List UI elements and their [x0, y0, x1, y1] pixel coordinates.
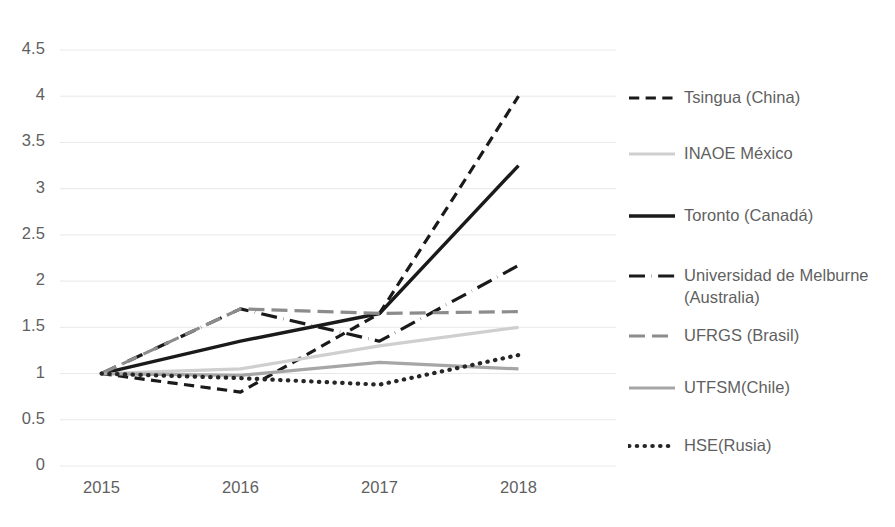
- legend-item[interactable]: INAOE México: [628, 142, 893, 164]
- solid-lightgray-line-icon: [628, 144, 676, 164]
- legend-item[interactable]: Tsingua (China): [628, 86, 893, 108]
- legend-item[interactable]: Universidad de Melburne (Australia): [628, 264, 893, 308]
- chart-legend: Tsingua (China)INAOE MéxicoToronto (Cana…: [628, 64, 893, 464]
- y-axis-tick-label: 1.5: [5, 316, 45, 335]
- dotted-black-line-icon: [628, 436, 676, 456]
- gridlines: [60, 50, 616, 466]
- y-axis-tick-label: 2: [5, 270, 45, 289]
- y-axis-tick-label: 0: [5, 455, 45, 474]
- series-lines: [102, 96, 519, 392]
- y-axis-tick-label: 2.5: [5, 224, 45, 243]
- dashed-black-line-icon: [628, 88, 676, 108]
- dashed-gray-line-icon: [628, 326, 676, 346]
- x-axis-tick-label: 2016: [201, 478, 281, 497]
- y-axis-tick-label: 0.5: [5, 409, 45, 428]
- legend-item-label: HSE(Rusia): [684, 434, 772, 456]
- x-axis-tick-label: 2018: [479, 478, 559, 497]
- y-axis-tick-label: 1: [5, 363, 45, 382]
- legend-item-label: UTFSM(Chile): [684, 376, 790, 398]
- legend-item-label: UFRGS (Brasil): [684, 324, 799, 346]
- legend-item-label: Tsingua (China): [684, 86, 800, 108]
- y-axis-tick-label: 4: [5, 85, 45, 104]
- legend-item-label: INAOE México: [684, 142, 793, 164]
- legend-item[interactable]: UFRGS (Brasil): [628, 324, 893, 346]
- legend-item-label: Toronto (Canadá): [684, 204, 813, 226]
- solid-gray-line-icon: [628, 378, 676, 398]
- legend-item[interactable]: HSE(Rusia): [628, 434, 893, 456]
- plot-svg: [0, 0, 630, 500]
- dashdot-black-line-icon: [628, 266, 676, 286]
- legend-item-label: Universidad de Melburne (Australia): [684, 264, 893, 308]
- series-line: [102, 96, 519, 392]
- plot-area: 00.511.522.533.544.5 2015201620172018: [0, 0, 630, 500]
- x-axis-tick-label: 2015: [62, 478, 142, 497]
- legend-item[interactable]: Toronto (Canadá): [628, 204, 893, 226]
- x-axis-tick-label: 2017: [340, 478, 420, 497]
- legend-item[interactable]: UTFSM(Chile): [628, 376, 893, 398]
- y-axis-tick-label: 3.5: [5, 131, 45, 150]
- line-chart: 00.511.522.533.544.5 2015201620172018 Ts…: [0, 0, 895, 527]
- y-axis-tick-label: 3: [5, 178, 45, 197]
- series-line: [102, 309, 519, 374]
- solid-black-line-icon: [628, 206, 676, 226]
- y-axis-tick-label: 4.5: [5, 39, 45, 58]
